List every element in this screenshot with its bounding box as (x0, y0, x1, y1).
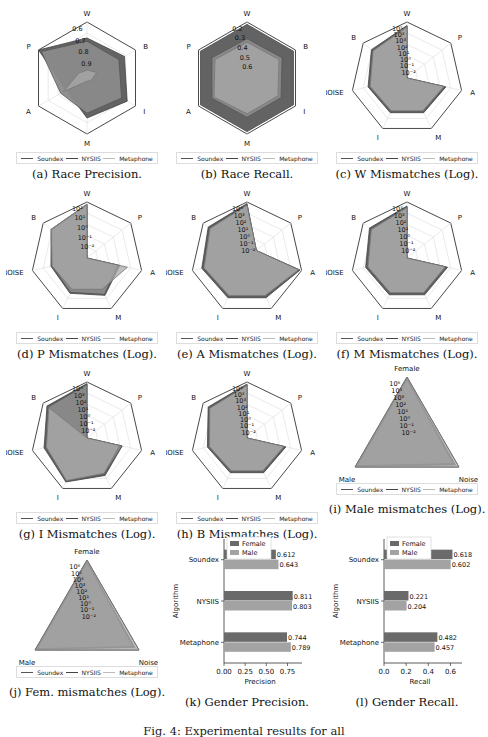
radar-tick-label: 10¹ (74, 214, 85, 222)
radar-axis-label: B (191, 214, 196, 222)
radar-axis-label: B (143, 43, 148, 51)
radar-axis-label: M (115, 494, 121, 502)
radar-tick-label: 10⁻² (82, 613, 97, 621)
legend-swatch (390, 541, 399, 546)
radar-axis-label: Female (74, 548, 99, 556)
radar-axis-label: P (26, 43, 30, 51)
legend-swatch (390, 550, 399, 555)
legend-swatch (66, 518, 78, 519)
radar-tick-label: 0.6 (72, 25, 82, 33)
legend-label: Soundex (197, 335, 223, 342)
legend-label: NYSIIS (82, 515, 101, 522)
chart-legend: SoundexNYSIISMetaphone (176, 152, 318, 164)
legend-swatch (423, 158, 435, 159)
radar-chart: 10⁴10³10²10¹10⁰10⁻¹10⁻²WPAMINOISEB (166, 180, 328, 330)
legend-label: Soundex (357, 335, 383, 342)
panel-j: 10⁶10⁵10⁴10³10²10¹10⁰10⁻¹10⁻²FemaleNoise… (6, 538, 168, 718)
subfigure-caption: (l) Gender Recall. (326, 695, 488, 709)
bar-male (224, 560, 278, 570)
x-tick-label: 0.6 (445, 668, 457, 676)
bar-data-label: 0.811 (294, 593, 313, 601)
legend-swatch (263, 158, 275, 159)
chart-legend: SoundexNYSIISMetaphone (176, 512, 318, 524)
legend-swatch (21, 158, 33, 159)
subfigure-caption: (i) Male mismatches (Log). (326, 502, 488, 516)
panel-b: 0.20.30.40.50.6WBIMAPSoundexNYSIISMetaph… (166, 0, 328, 180)
radar-chart: 10⁵10⁴10³10²10¹10⁰10⁻¹10⁻²WPAMINOISEB (166, 360, 328, 510)
legend-swatch (423, 338, 435, 339)
legend-label: NYSIIS (242, 335, 261, 342)
legend-swatch (66, 158, 78, 159)
legend-item: Metaphone (103, 335, 153, 342)
legend-label: Metaphone (279, 335, 313, 342)
radar-tick-label: 10⁰ (77, 224, 88, 232)
legend-label: Soundex (37, 515, 63, 522)
chart-legend: SoundexNYSIISMetaphone (336, 152, 478, 164)
legend-label: NYSIIS (242, 515, 261, 522)
x-tick-label: 0.4 (423, 668, 435, 676)
chart-legend: SoundexNYSIISMetaphone (16, 152, 158, 164)
y-tick-label: NYSIIS (356, 598, 379, 606)
radar-tick-label: 0.7 (75, 37, 85, 45)
legend-swatch (341, 338, 353, 339)
legend-swatch (226, 338, 238, 339)
bar-data-label: 0.457 (436, 644, 455, 652)
radar-axis-label: W (244, 370, 251, 378)
y-tick-label: Soundex (349, 556, 379, 564)
bar-male (224, 642, 291, 652)
bar-chart: 0.6120.643Soundex0.8110.803NYSIIS0.7440.… (166, 535, 328, 695)
radar-axis-label: I (377, 314, 379, 322)
bar-legend: FemaleMale (387, 537, 431, 559)
legend-label: NYSIIS (402, 335, 421, 342)
legend-item: NYSIIS (226, 335, 261, 342)
legend-item: Soundex (21, 515, 63, 522)
bar-data-label: 0.612 (277, 551, 296, 559)
legend-swatch (386, 158, 398, 159)
legend-item: NYSIIS (386, 335, 421, 342)
radar-axis-label: P (298, 394, 302, 402)
radar-tick-label: 0.3 (235, 34, 245, 42)
subfigure-caption: (c) W Mismatches (Log). (326, 167, 488, 181)
panel-c: 10⁵10⁴10³10²10¹10⁰10⁻¹10⁻²WPAMINOISEBSou… (326, 0, 488, 180)
radar-axis-label: B (31, 394, 36, 402)
subfigure-caption: (j) Fem. mismatches (Log). (6, 685, 168, 699)
legend-item: Soundex (21, 335, 63, 342)
legend-swatch (66, 672, 78, 673)
radar-chart: 0.60.70.80.9WBIMAP (6, 0, 168, 150)
legend-item: NYSIIS (386, 486, 421, 493)
bar-female (224, 632, 287, 642)
legend-item: Metaphone (423, 486, 473, 493)
radar-axis-label: A (26, 108, 31, 116)
radar-axis-label: I (303, 108, 305, 116)
legend-label: NYSIIS (402, 155, 421, 162)
legend-item: Soundex (341, 486, 383, 493)
legend-swatch (181, 518, 193, 519)
radar-axis-label: NOISE (6, 449, 24, 457)
panel-k: 0.6120.643Soundex0.8110.803NYSIIS0.7440.… (166, 535, 328, 725)
bar-data-label: 0.618 (453, 551, 472, 559)
legend-label: Female (242, 540, 266, 548)
legend-label: NYSIIS (82, 335, 101, 342)
subfigure-caption: (k) Gender Precision. (166, 695, 328, 709)
bar-data-label: 0.789 (292, 644, 311, 652)
legend-item: Metaphone (103, 669, 153, 676)
legend-label: Soundex (197, 155, 223, 162)
radar-axis-label: A (310, 269, 315, 277)
figure-caption: Fig. 4: Experimental results for all (0, 724, 488, 737)
x-tick-label: 0.75 (280, 668, 296, 676)
radar-chart: 10⁴10³10²10¹10⁰10⁻¹10⁻²WPAMINOISEB (6, 360, 168, 510)
radar-axis-label: W (84, 10, 91, 18)
legend-label: Soundex (37, 669, 63, 676)
x-axis-label: Precision (244, 678, 275, 686)
legend-item: Soundex (341, 335, 383, 342)
legend-item: Metaphone (423, 335, 473, 342)
legend-swatch (103, 158, 115, 159)
legend-item: Soundex (21, 669, 63, 676)
radar-tick-label: 10⁻² (401, 69, 416, 77)
y-axis-label: Algorithm (172, 584, 180, 618)
x-tick-label: 0.25 (237, 668, 253, 676)
chart-legend: SoundexNYSIISMetaphone (336, 483, 478, 495)
legend-swatch (103, 338, 115, 339)
y-tick-label: Soundex (189, 556, 219, 564)
radar-axis-label: A (186, 108, 191, 116)
